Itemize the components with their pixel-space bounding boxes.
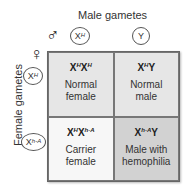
punnett-square: XHXH Normalfemale XHY Normalmale XHXh-A … bbox=[47, 51, 180, 182]
gamete-allele: H bbox=[34, 72, 38, 78]
male-symbol-icon: ♂ bbox=[46, 26, 60, 44]
male-gametes-label: Male gametes bbox=[78, 9, 147, 21]
female-gamete-xh: XH bbox=[23, 67, 43, 85]
gamete-base: Y bbox=[138, 31, 144, 41]
cell-normal-female: XHXH Normalfemale bbox=[48, 52, 114, 117]
cell-hemophilia-male: Xh-AY Male withhemophilia bbox=[114, 117, 180, 182]
genotype: XHXh-A bbox=[67, 127, 95, 138]
male-gamete-xh: XH bbox=[70, 27, 90, 45]
female-gamete-xha: Xh-A bbox=[21, 133, 46, 151]
genotype: Xh-AY bbox=[135, 127, 158, 138]
gamete-allele: h-A bbox=[32, 138, 41, 144]
male-gamete-y: Y bbox=[132, 27, 150, 45]
genotype: XHXH bbox=[70, 62, 92, 73]
female-gametes-label: Female gametes bbox=[12, 66, 24, 146]
cell-carrier-female: XHXh-A Carrierfemale bbox=[48, 117, 114, 182]
phenotype: Carrierfemale bbox=[65, 144, 96, 168]
genotype: XHY bbox=[137, 62, 155, 73]
phenotype: Normalfemale bbox=[65, 79, 97, 103]
gamete-allele: H bbox=[81, 32, 85, 38]
phenotype: Normalmale bbox=[130, 79, 162, 103]
female-symbol-icon: ♀ bbox=[30, 45, 44, 63]
phenotype: Male withhemophilia bbox=[122, 144, 170, 168]
cell-normal-male: XHY Normalmale bbox=[114, 52, 180, 117]
